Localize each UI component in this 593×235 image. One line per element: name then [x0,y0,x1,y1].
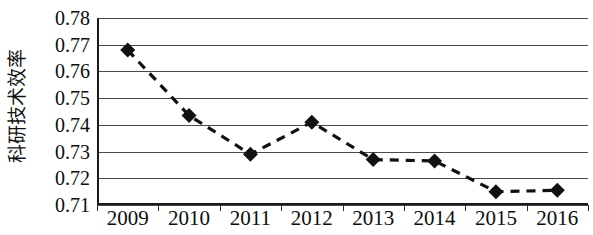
x-axis-tick-labels: 20092010201120122013201420152016 [97,207,588,235]
y-axis-tick-label: 0.77 [55,35,90,55]
data-point-marker [488,184,503,199]
y-axis-tick-label: 0.73 [55,142,90,162]
x-axis-tick-label: 2012 [291,207,333,230]
y-axis-tick-label: 0.71 [55,195,90,215]
data-point-marker [550,183,565,198]
data-series-layer [97,18,588,205]
y-axis-title: 科研技术效率 [0,0,30,210]
data-point-marker [243,147,258,162]
y-axis-title-text: 科研技术效率 [2,48,29,162]
data-point-marker [304,115,319,130]
x-axis-tick-label: 2011 [230,207,271,230]
series-markers [120,43,565,200]
y-axis-tick-label: 0.72 [55,168,90,188]
x-axis-tick [588,205,589,211]
x-axis-tick-label: 2016 [536,207,578,230]
y-axis-tick-label: 0.75 [55,88,90,108]
data-point-marker [366,152,381,167]
y-axis-tick-label: 0.78 [55,8,90,28]
data-point-marker [427,153,442,168]
line-chart: 科研技术效率 0.780.770.760.750.740.730.720.71 … [0,0,593,235]
y-axis-tick-labels: 0.780.770.760.750.740.730.720.71 [36,0,94,235]
series-line [128,50,558,192]
x-axis-tick-label: 2013 [352,207,394,230]
x-axis-tick-label: 2014 [414,207,456,230]
x-axis-tick-label: 2015 [475,207,517,230]
x-axis-tick-label: 2010 [168,207,210,230]
plot-area [97,18,588,205]
x-axis-tick-label: 2009 [107,207,149,230]
y-axis-tick-label: 0.76 [55,61,90,81]
y-axis-tick-label: 0.74 [55,115,90,135]
